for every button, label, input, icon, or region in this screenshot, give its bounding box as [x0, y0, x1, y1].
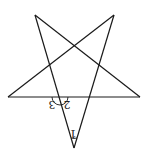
- edge-topright-left: [8, 15, 114, 97]
- edge-bottom-topright: [74, 15, 114, 148]
- angle-label-3: 3: [49, 98, 56, 111]
- angle-label-1: 1: [70, 127, 77, 140]
- edge-right-topleft: [35, 15, 140, 97]
- pentagram-diagram: 1 2 3: [0, 0, 152, 158]
- edge-topleft-bottom: [35, 15, 74, 148]
- angle-label-2: 2: [64, 98, 71, 111]
